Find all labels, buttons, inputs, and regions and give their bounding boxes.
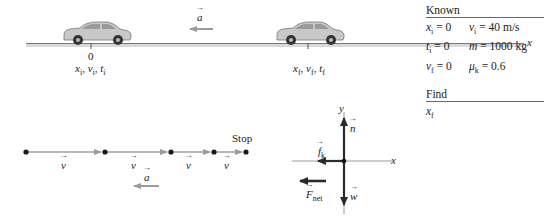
velocity-label: v (186, 159, 191, 171)
motion-dot (23, 149, 28, 154)
friction-force-label: fk (318, 145, 325, 160)
fbd-x-label: x (391, 154, 396, 166)
find-row: xf (426, 104, 544, 123)
velocity-label: v (224, 159, 229, 171)
weight-force-label: w (350, 190, 357, 202)
known-row-2: ti = 0 m = 1000 kg (426, 39, 544, 58)
car-initial-icon (64, 22, 131, 45)
velocity-label: v (61, 159, 66, 171)
net-force-label: Fnet (306, 188, 323, 203)
motion-dot (102, 149, 107, 154)
known-row-3: vf = 0 μk = 0.6 (426, 59, 544, 78)
stop-label: Stop (232, 132, 252, 144)
acceleration-label-top: a (197, 11, 203, 23)
motion-dot (211, 149, 216, 154)
known-heading: Known (426, 4, 544, 18)
find-heading: Find (426, 88, 544, 102)
car-final-icon (277, 22, 344, 45)
velocity-label: v (131, 159, 136, 171)
origin-label: 0 (88, 50, 94, 62)
known-row-1: xi = 0 vi = 40 m/s (426, 20, 544, 39)
motion-dot (168, 149, 173, 154)
acceleration-label-bottom: a (144, 171, 150, 183)
normal-force-label: n (350, 122, 356, 134)
motion-dot-stop (243, 149, 248, 154)
initial-state-labels: xi, vi, ti (75, 62, 106, 77)
fbd-y-label: y (339, 102, 344, 114)
final-state-labels: xf, vf, tf (293, 62, 325, 77)
known-find-table: Known xi = 0 vi = 40 m/s ti = 0 m = 1000… (426, 4, 544, 123)
